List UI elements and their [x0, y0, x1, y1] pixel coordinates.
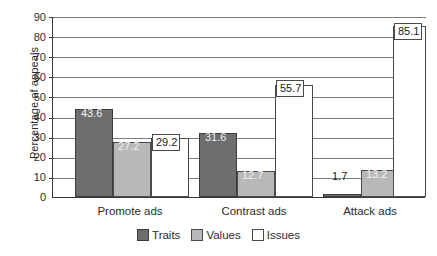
legend-label-issues: Issues	[267, 229, 300, 241]
y-tick-mark-10	[49, 178, 54, 179]
y-tick-mark-20	[49, 158, 54, 159]
legend-label-values: Values	[206, 229, 240, 241]
y-tick-mark-70	[49, 57, 54, 58]
legend-item-values[interactable]: Values	[191, 229, 240, 241]
gridline-60	[53, 77, 426, 78]
y-tick-label-60: 60	[20, 72, 46, 83]
value-label-promote-values: 27.2	[115, 139, 141, 154]
value-label-promote-traits: 43.6	[78, 106, 104, 121]
legend-item-traits[interactable]: Traits	[137, 229, 180, 241]
y-tick-label-20: 20	[20, 152, 46, 163]
y-tick-label-10: 10	[20, 172, 46, 183]
gridline-50	[53, 97, 426, 98]
y-tick-mark-30	[49, 138, 54, 139]
y-tick-label-80: 80	[20, 32, 46, 43]
bar-attack-issues[interactable]	[393, 26, 426, 197]
legend-label-traits: Traits	[152, 229, 180, 241]
y-tick-label-50: 50	[20, 92, 46, 103]
plot-area: 43.6 27.2 29.2 31.6 12.7 55.7 1.7 13.2 8…	[52, 17, 425, 198]
y-tick-label-40: 40	[20, 112, 46, 123]
bar-promote-traits[interactable]	[75, 109, 113, 197]
y-tick-mark-90	[49, 17, 54, 18]
y-tick-label-30: 30	[20, 132, 46, 143]
value-label-contrast-issues: 55.7	[276, 80, 304, 97]
bar-contrast-issues[interactable]	[275, 85, 313, 197]
gridline-90	[53, 17, 426, 18]
y-tick-mark-40	[49, 118, 54, 119]
x-category-label-attack: Attack ads	[300, 205, 437, 217]
value-label-contrast-traits: 31.6	[202, 130, 228, 145]
value-label-attack-traits: 1.7	[329, 169, 349, 184]
legend-swatch-values-icon	[191, 229, 203, 241]
y-tick-mark-60	[49, 77, 54, 78]
legend: Traits Values Issues	[0, 229, 437, 241]
value-label-attack-issues: 85.1	[394, 23, 422, 40]
legend-item-issues[interactable]: Issues	[252, 229, 300, 241]
x-category-label-promote: Promote ads	[60, 205, 200, 217]
value-label-contrast-values: 12.7	[239, 168, 265, 183]
bar-chart: Percentage of appeals 90 80 70 60 50 40 …	[0, 0, 437, 256]
gridline-80	[53, 37, 426, 38]
y-tick-label-0: 0	[20, 192, 46, 203]
value-label-promote-issues: 29.2	[152, 134, 180, 151]
bar-attack-traits[interactable]	[323, 194, 361, 197]
legend-swatch-issues-icon	[252, 229, 264, 241]
y-tick-label-70: 70	[20, 52, 46, 63]
value-label-attack-values: 13.2	[363, 167, 389, 182]
y-tick-label-90: 90	[20, 12, 46, 23]
gridline-70	[53, 57, 426, 58]
y-tick-mark-50	[49, 97, 54, 98]
legend-swatch-traits-icon	[137, 229, 149, 241]
y-tick-mark-80	[49, 37, 54, 38]
